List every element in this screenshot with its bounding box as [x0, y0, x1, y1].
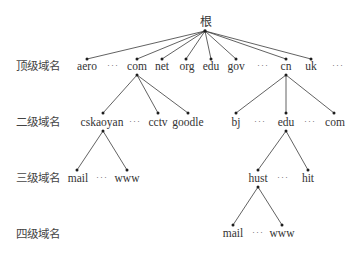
com-branch-dot	[136, 74, 139, 77]
node-edu-cn: edu	[278, 116, 295, 128]
ellipsis-icon: ···	[254, 116, 266, 126]
node-cn: cn	[281, 60, 292, 72]
node-bj: bj	[232, 116, 241, 129]
hust-branch-dot	[257, 186, 260, 189]
root-dot	[203, 29, 206, 32]
node-edu: edu	[203, 60, 220, 72]
cn-edges	[236, 75, 334, 113]
edge-hust-www	[258, 187, 282, 225]
node-www-hust: www	[270, 227, 296, 239]
ellipsis-icon: ···	[304, 116, 316, 126]
edge-edu-hust	[258, 131, 286, 170]
node-goodle: goodle	[172, 116, 203, 129]
ellipsis-icon: ···	[332, 60, 344, 70]
node-org: org	[179, 60, 194, 73]
level-label-second: 二级域名	[16, 115, 60, 128]
node-mail-hust: mail	[223, 227, 243, 239]
edge-cskaoyan-mail	[77, 131, 103, 170]
node-mail-cskaoyan: mail	[68, 172, 88, 184]
goodle-dot	[187, 112, 190, 115]
edge-com-goodle	[137, 75, 188, 113]
edge-cn-bj	[236, 75, 286, 113]
node-cctv: cctv	[148, 116, 167, 128]
node-uk: uk	[305, 60, 317, 72]
node-net: net	[155, 60, 170, 72]
cskaoyan-branch-dot	[102, 130, 105, 133]
domain-name-tree-diagram: 顶级域名 二级域名 三级域名 四级域名 根	[0, 0, 355, 257]
cskaoyan-dot	[102, 112, 105, 115]
edge-edu-hit	[286, 131, 308, 170]
node-hust: hust	[248, 172, 268, 184]
root-node-label: 根	[200, 15, 212, 29]
root-edges	[87, 31, 311, 59]
level-label-third: 三级域名	[16, 171, 60, 184]
top-level-domains: aero ··· com net org edu gov ··· cn uk ·…	[77, 60, 344, 73]
node-hit: hit	[302, 172, 315, 184]
ellipsis-icon: ···	[129, 116, 141, 126]
com-second-dot	[333, 112, 336, 115]
edu-second-dot	[285, 112, 288, 115]
cctv-dot	[157, 112, 160, 115]
edge-root-net	[162, 31, 205, 59]
level-label-top: 顶级域名	[16, 59, 60, 72]
node-com: com	[127, 60, 147, 72]
fourth-level-domains: mail ··· www	[223, 227, 295, 239]
ellipsis-icon: ···	[96, 172, 108, 182]
edge-root-aero	[87, 31, 205, 59]
edge-root-cn	[205, 31, 286, 59]
hust-edges	[233, 187, 282, 225]
cn-branch-dot	[285, 74, 288, 77]
node-com-cn: com	[325, 116, 345, 128]
edge-cskaoyan-www	[103, 131, 127, 170]
bj-dot	[235, 112, 238, 115]
edge-hust-mail	[233, 187, 258, 225]
ellipsis-icon: ···	[277, 172, 289, 182]
node-gov: gov	[227, 60, 245, 73]
node-aero: aero	[77, 60, 97, 72]
edge-com-cctv	[137, 75, 158, 113]
edu-branch-dot	[285, 130, 288, 133]
com-edges	[103, 75, 188, 113]
edge-com-cskaoyan	[103, 75, 137, 113]
edge-cn-com	[286, 75, 334, 113]
edu-edges	[258, 131, 308, 170]
level-label-fourth: 四级域名	[16, 227, 60, 240]
node-www-cskaoyan: www	[115, 172, 141, 184]
ellipsis-icon: ···	[252, 227, 264, 237]
ellipsis-icon: ···	[257, 60, 269, 70]
second-level-domains: cskaoyan ··· cctv goodle bj ··· edu ··· …	[81, 116, 345, 129]
node-cskaoyan: cskaoyan	[81, 116, 124, 129]
cskaoyan-edges	[77, 131, 127, 170]
ellipsis-icon: ···	[107, 60, 119, 70]
third-level-domains: mail ··· www hust ··· hit	[68, 172, 315, 184]
